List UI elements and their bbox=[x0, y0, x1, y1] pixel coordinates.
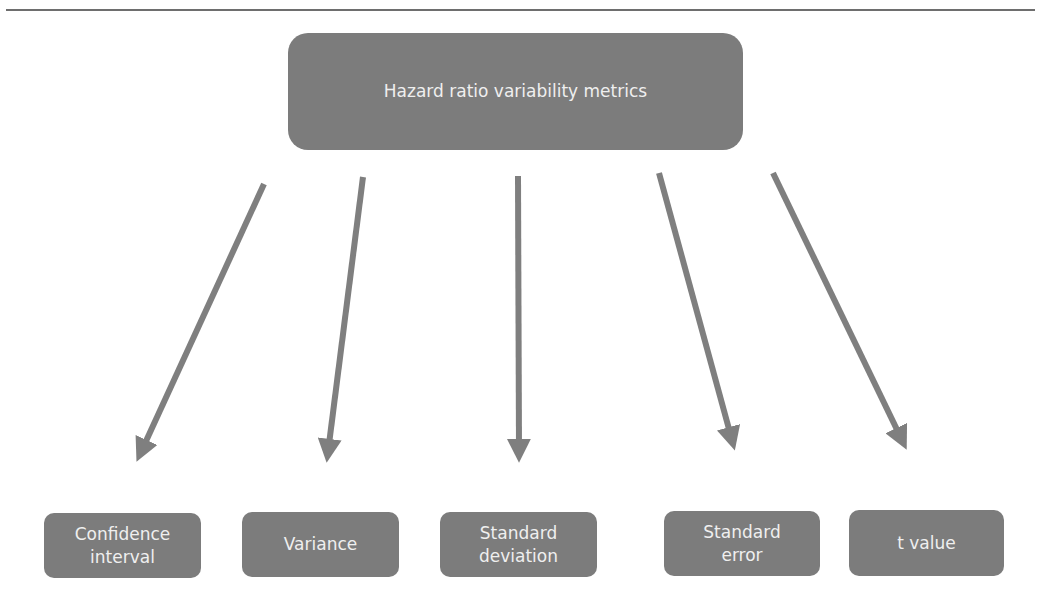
arrow-to-t-value bbox=[773, 173, 902, 440]
leaf-node-label: Variance bbox=[284, 533, 357, 555]
leaf-node-standard-deviation: Standard deviation bbox=[440, 512, 597, 577]
arrow-to-variance bbox=[328, 177, 363, 452]
leaf-node-confidence-interval: Confidence interval bbox=[44, 513, 201, 578]
leaf-node-label: Standard deviation bbox=[460, 522, 577, 566]
leaf-node-label: Standard error bbox=[694, 521, 790, 565]
leaf-node-label: t value bbox=[897, 532, 956, 554]
arrow-to-standard-deviation bbox=[518, 176, 519, 452]
arrow-to-standard-error bbox=[659, 173, 732, 440]
leaf-node-standard-error: Standard error bbox=[664, 511, 820, 576]
leaf-node-variance: Variance bbox=[242, 512, 399, 577]
arrow-to-confidence-interval bbox=[141, 184, 264, 452]
leaf-node-t-value: t value bbox=[849, 510, 1004, 576]
leaf-node-label: Confidence interval bbox=[50, 523, 195, 567]
